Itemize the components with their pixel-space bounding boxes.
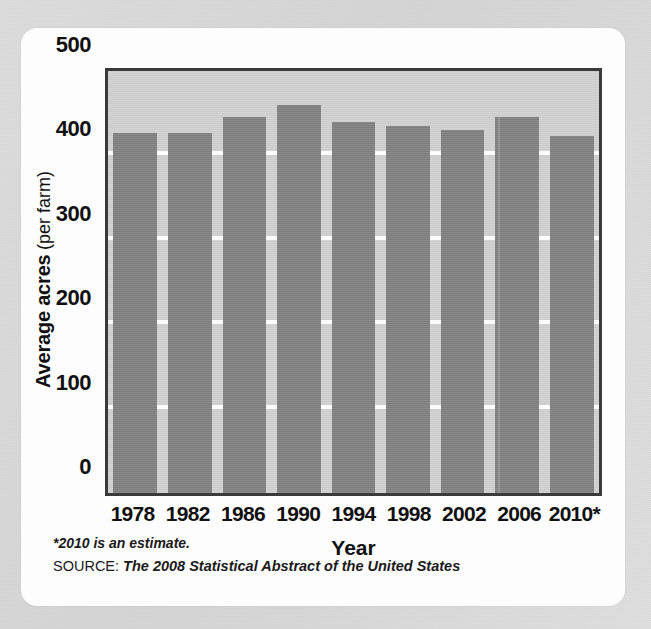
bar-slot [272,71,327,493]
x-axis-tick-labels: 197819821986199019941998200220062010* [105,502,602,526]
y-tick-100: 100 [56,370,91,396]
bar-1986[interactable] [223,117,267,493]
bar-slot [217,71,272,493]
bar-slot [163,71,218,493]
plot-area [105,68,602,496]
chart-notes: *2010 is an estimate. SOURCE: The 2008 S… [53,533,593,577]
x-tick-2006: 2006 [492,502,547,526]
chart-card: Average acres (per farm) 010020030040050… [21,28,625,606]
y-tick-500: 500 [56,32,91,58]
y-tick-0: 0 [79,454,91,480]
bar-slot [108,71,163,493]
x-tick-2010: 2010* [547,502,602,526]
x-tick-1994: 1994 [326,502,381,526]
x-tick-1990: 1990 [271,502,326,526]
bar-1994[interactable] [332,122,376,493]
bar-1982[interactable] [168,133,212,493]
bar-slot [435,71,490,493]
bar-2006[interactable] [495,117,539,493]
bar-1978[interactable] [113,133,157,493]
x-tick-2002: 2002 [436,502,491,526]
y-tick-400: 400 [56,116,91,142]
y-axis-tick-labels: 0100200300400500 [21,68,97,496]
y-tick-200: 200 [56,285,91,311]
x-tick-1982: 1982 [160,502,215,526]
source-line: SOURCE: The 2008 Statistical Abstract of… [53,555,593,577]
bar-slot [326,71,381,493]
x-tick-1978: 1978 [105,502,160,526]
bar-1998[interactable] [386,126,430,493]
x-tick-1986: 1986 [215,502,270,526]
y-tick-300: 300 [56,201,91,227]
bar-2002[interactable] [441,130,485,493]
bar-chart-figure: Average acres (per farm) 010020030040050… [21,28,625,606]
bar-2010[interactable] [550,136,594,493]
bar-slot [381,71,436,493]
footnote-estimate: *2010 is an estimate. [53,533,593,555]
bars-container [108,71,599,493]
source-label: SOURCE: [53,558,119,574]
bar-slot [490,71,545,493]
source-title: The 2008 Statistical Abstract of the Uni… [123,558,460,574]
x-tick-1998: 1998 [381,502,436,526]
bar-1990[interactable] [277,105,321,493]
bar-slot [545,71,600,493]
